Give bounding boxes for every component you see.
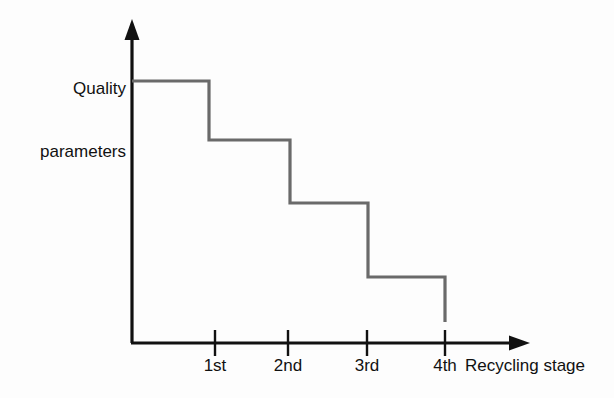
x-tick-label-1st: 1st bbox=[185, 355, 245, 376]
x-tick-label-3rd: 3rd bbox=[337, 355, 397, 376]
y-axis-arrowhead bbox=[125, 19, 140, 40]
x-axis-arrowhead bbox=[509, 336, 530, 351]
x-axis-title: Recycling stage bbox=[465, 355, 585, 376]
chart-figure: Quality parameters 1st 2nd 3rd 4th Recyc… bbox=[0, 0, 614, 398]
y-axis-title-line2: parameters bbox=[0, 141, 126, 162]
y-axis-title-line1: Quality bbox=[0, 78, 126, 99]
y-axis-title: Quality parameters bbox=[0, 36, 126, 204]
quality-step-series bbox=[132, 81, 445, 322]
x-tick-label-2nd: 2nd bbox=[258, 355, 318, 376]
